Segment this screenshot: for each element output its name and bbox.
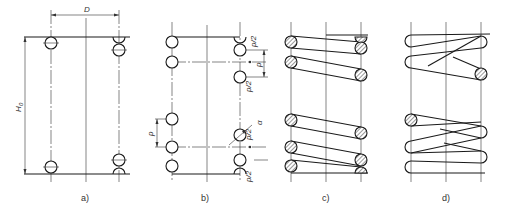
svg-text:0: 0	[18, 102, 24, 106]
hatched-coil-section	[405, 114, 417, 126]
angle-alpha-label: α	[255, 120, 264, 125]
dimension-p-label-left: p	[146, 131, 155, 137]
hatched-coil-section	[355, 69, 367, 81]
panel-c-label: c)	[322, 193, 330, 203]
coil-section	[166, 113, 178, 125]
panel-b-label: b)	[201, 193, 209, 203]
coil-section	[166, 160, 178, 172]
dimension-d-label: D	[84, 5, 90, 14]
dimension-p-label-right: p	[254, 62, 263, 68]
hatched-coil-section	[355, 127, 367, 139]
coil-section	[234, 154, 246, 166]
arrow-icon	[24, 37, 27, 42]
dimension-h0-label: H 0	[14, 102, 24, 112]
dimension-half-pitch-mid: p/2	[244, 80, 253, 93]
spring-outline	[405, 34, 490, 173]
dimension-half-pitch-bottom: p/2	[244, 170, 253, 183]
hatched-coil-section	[285, 56, 297, 68]
panel-d-label: d)	[442, 193, 450, 203]
arrow-icon	[51, 14, 56, 17]
coil-half-section	[355, 167, 367, 173]
coil-section	[166, 36, 178, 48]
panel-a-label: a)	[81, 193, 89, 203]
panel-b: p p p/2 p/2 p/2 p/2 α b)	[146, 22, 268, 203]
coil-section	[166, 141, 178, 153]
coil-section	[234, 44, 246, 56]
hatched-coil-section	[285, 160, 297, 172]
dimension-half-pitch-top: p/2	[249, 35, 258, 48]
coil-section	[166, 56, 178, 68]
hatched-coil-section	[285, 36, 297, 48]
hatched-coil-section	[355, 154, 367, 166]
hatched-coil-section	[355, 42, 367, 54]
panel-d: d)	[405, 22, 490, 203]
panel-c: c)	[285, 22, 368, 203]
hatched-coil-section	[285, 141, 297, 153]
hatched-coil-section	[475, 68, 487, 80]
arrow-icon	[24, 169, 27, 174]
spring-drawing-figure: D H 0 a)	[0, 0, 505, 212]
arrow-icon	[114, 14, 119, 17]
panel-a: D H 0 a)	[14, 5, 130, 203]
hatched-coil-section	[285, 114, 297, 126]
